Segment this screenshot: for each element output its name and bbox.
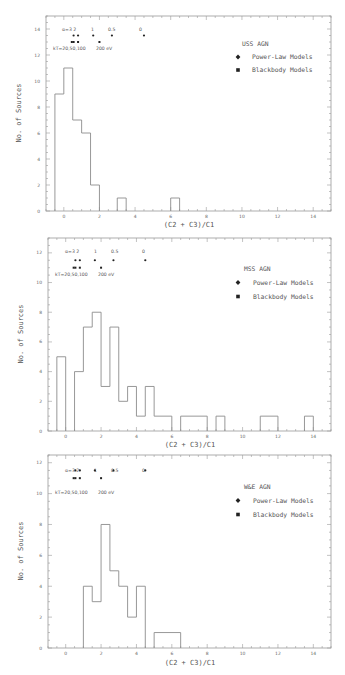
power-law-marker [74, 469, 76, 471]
x-axis-label: (C2 + C3)/C1 [165, 441, 216, 449]
power-law-marker [94, 469, 96, 471]
histogram-outline [83, 524, 180, 648]
y-axis-label: No. of Sources [17, 304, 25, 363]
x-tick-label: 0 [64, 651, 67, 656]
x-tick-label: 6 [170, 434, 173, 439]
legend-title: W&E AGN [244, 483, 271, 490]
y-tick-label: 6 [39, 339, 42, 344]
x-tick-label: 12 [275, 434, 281, 439]
square-icon [236, 295, 240, 299]
diamond-icon [236, 55, 241, 60]
x-tick-label: 8 [205, 214, 208, 219]
x-tick-label: 14 [310, 214, 316, 219]
y-axis-label: No. of Sources [17, 521, 25, 580]
blackbody-marker [79, 267, 81, 269]
power-law-marker [144, 259, 146, 261]
x-tick-label: 4 [134, 214, 137, 219]
kt-annotation: kT=20,50,100 [55, 490, 88, 495]
x-tick-label: 0 [62, 214, 65, 219]
y-tick-label: 10 [36, 491, 42, 496]
x-tick-label: 12 [275, 651, 281, 656]
power-law-marker [112, 259, 114, 261]
power-law-marker [112, 469, 114, 471]
diamond-icon [236, 280, 241, 285]
x-tick-label: 14 [310, 651, 316, 656]
blackbody-marker [98, 41, 100, 43]
blackbody-marker [71, 41, 73, 43]
alpha-annotation-1: 1 [94, 249, 97, 254]
legend-power-law-label: Power-Law Models [253, 279, 314, 286]
alpha-annotation: α=3 2 [62, 27, 76, 32]
power-law-marker [111, 34, 113, 36]
legend-power-law-label: Power-Law Models [253, 497, 314, 504]
y-tick-label: 12 [36, 250, 42, 255]
plot-area: 02468101214024681012 [36, 455, 331, 656]
we-agn-panel: No. of Sources (C2 + C3)/C1 W&E AGN Powe… [17, 468, 314, 667]
y-tick-label: 4 [39, 369, 42, 374]
x-tick-label: 12 [275, 214, 281, 219]
legend-blackbody-label: Blackbody Models [253, 511, 314, 519]
y-tick-label: 6 [39, 553, 42, 558]
y-tick-label: 2 [37, 183, 40, 188]
y-tick-label: 12 [36, 460, 42, 465]
plot-frame [48, 238, 331, 431]
plot-geometry: 0246810121402468101214024681012140246810… [34, 16, 331, 656]
legend-blackbody-label: Blackbody Models [252, 66, 313, 74]
y-tick-label: 4 [39, 584, 42, 589]
y-tick-label: 8 [39, 522, 42, 527]
x-tick-label: 8 [206, 651, 209, 656]
y-tick-label: 10 [34, 79, 40, 84]
x-tick-label: 2 [98, 214, 101, 219]
plot-frame [46, 16, 331, 211]
x-tick-label: 8 [206, 434, 209, 439]
y-tick-label: 8 [37, 105, 40, 110]
blackbody-marker [73, 267, 75, 269]
blackbody-marker [100, 267, 102, 269]
power-law-marker [143, 34, 145, 36]
x-tick-label: 2 [100, 434, 103, 439]
figure-canvas: No. of Sources (C2 + C3)/C1 USS AGN Powe… [0, 0, 345, 675]
kt-annotation-200: 200 eV [96, 46, 113, 51]
y-tick-label: 8 [39, 310, 42, 315]
plot-area: 02468101214024681012 [36, 238, 331, 439]
diamond-icon [236, 498, 241, 503]
power-law-marker [73, 34, 75, 36]
plot-frame [48, 455, 331, 648]
y-tick-label: 6 [37, 131, 40, 136]
power-law-marker [74, 259, 76, 261]
x-tick-label: 10 [240, 434, 246, 439]
power-law-marker [92, 34, 94, 36]
blackbody-marker [74, 477, 76, 479]
square-icon [236, 513, 240, 517]
y-tick-label: 14 [34, 27, 40, 32]
blackbody-marker [73, 41, 75, 43]
y-tick-label: 2 [39, 399, 42, 404]
kt-annotation: kT=20,50,100 [53, 46, 86, 51]
blackbody-marker [73, 477, 75, 479]
power-law-marker [144, 469, 146, 471]
histogram-outline [55, 68, 180, 211]
x-tick-label: 14 [310, 434, 316, 439]
y-tick-label: 12 [34, 53, 40, 58]
kt-annotation: kT=20,50,100 [55, 272, 88, 277]
y-tick-label: 0 [37, 209, 40, 214]
x-tick-label: 6 [169, 214, 172, 219]
alpha-annotation-0-5: 0.5 [111, 468, 118, 473]
blackbody-marker [79, 477, 81, 479]
mss-agn-panel: No. of Sources (C2 + C3)/C1 MSS AGN Powe… [17, 249, 314, 449]
power-law-marker [79, 259, 81, 261]
blackbody-marker [74, 267, 76, 269]
kt-annotation-200: 200 eV [98, 272, 115, 277]
blackbody-marker [100, 477, 102, 479]
legend-power-law-label: Power-Law Models [252, 53, 313, 60]
blackbody-marker [77, 41, 79, 43]
power-law-marker [77, 34, 79, 36]
alpha-annotation-0-5: 0.5 [108, 27, 115, 32]
y-tick-label: 0 [39, 646, 42, 651]
alpha-annotation-0: 0 [142, 249, 145, 254]
y-tick-label: 0 [39, 429, 42, 434]
x-axis-label: (C2 + C3)/C1 [165, 659, 216, 667]
x-tick-label: 4 [135, 434, 138, 439]
uss-agn-panel: No. of Sources (C2 + C3)/C1 USS AGN Powe… [15, 27, 313, 229]
legend-blackbody-label: Blackbody Models [253, 293, 314, 301]
